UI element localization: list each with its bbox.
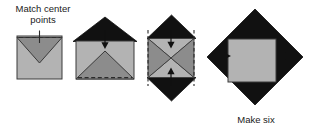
- step4-light-center-square: [228, 39, 276, 82]
- match-center-points-label: Match center points: [6, 3, 80, 25]
- instruction-diagram: Match center points Make six: [0, 0, 314, 132]
- step-4-black-diamond-with-center-square: [207, 9, 303, 105]
- step-2-black-triangle-over-square: [73, 17, 137, 79]
- make-six-label: Make six: [213, 114, 299, 125]
- step-1-square-with-folded-triangle: [17, 31, 62, 80]
- step-3-hourglass-with-black-points: [147, 15, 196, 101]
